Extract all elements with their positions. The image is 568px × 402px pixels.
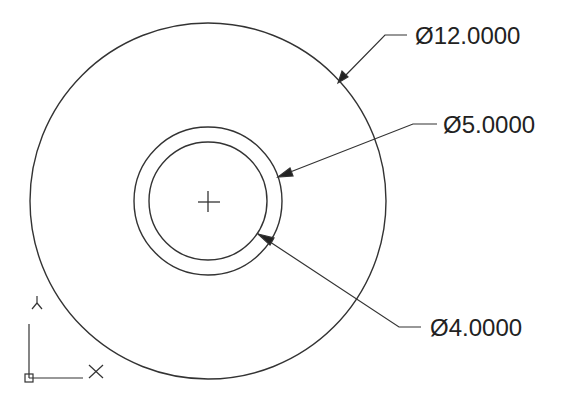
ucs-x-axis-icon bbox=[89, 365, 103, 378]
dimension-label-d12: Ø12.0000 bbox=[415, 22, 520, 49]
dimension-leader-d4 bbox=[258, 234, 421, 327]
center-mark-icon bbox=[198, 191, 220, 212]
dimension-leader-d12 bbox=[338, 35, 407, 83]
dimension-label-d4: Ø4.0000 bbox=[430, 314, 522, 341]
dimension-label-d5: Ø5.0000 bbox=[443, 111, 535, 138]
ucs-y-axis-icon bbox=[32, 296, 42, 309]
ucs-icon bbox=[25, 324, 83, 382]
cad-drawing: Ø12.0000 Ø5.0000 Ø4.0000 Y X bbox=[0, 0, 568, 402]
dimension-leader-d5 bbox=[278, 124, 437, 177]
